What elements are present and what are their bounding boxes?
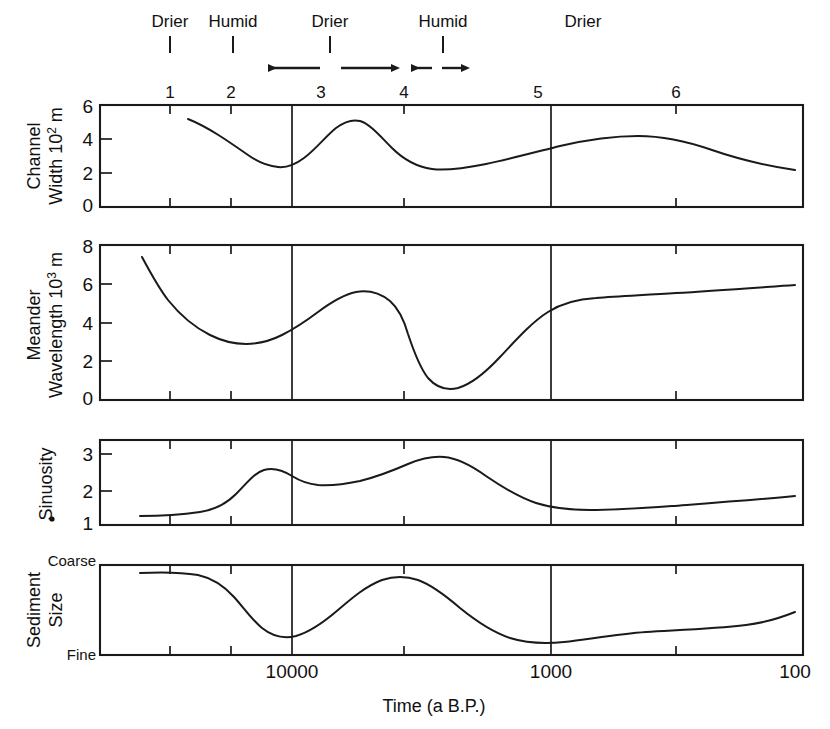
panel-1-ylabel-0: 0: [82, 195, 93, 216]
phase-number-4: 4: [399, 83, 408, 102]
panel-2-ytitle-group: Meander Wavelength 103 m: [24, 252, 66, 398]
sinuosity-bullet-icon: [49, 516, 54, 521]
panel-1-ylabel-2: 2: [82, 163, 93, 184]
phase-number-6: 6: [671, 83, 680, 102]
climate-label-3: Drier: [312, 12, 349, 31]
panel-3-ylabel-2: 2: [82, 481, 93, 502]
climate-label-5: Drier: [565, 12, 602, 31]
panel-2-ylabel-2: 2: [82, 351, 93, 372]
xtick-label-1000: 1000: [530, 661, 572, 682]
panel-channel-width: 6 4 2 0: [82, 96, 803, 216]
panel-sinuosity: 3 2 1: [82, 440, 803, 534]
xtick-label-100: 100: [779, 661, 811, 682]
xtick-label-10000: 10000: [266, 661, 319, 682]
panel-1-ytitle-line2: Width 102 m: [45, 107, 66, 205]
phase-number-1: 1: [165, 83, 174, 102]
panel-1-ytitle-group: Channel Width 102 m: [24, 107, 66, 205]
panel-3-ylabel-3: 3: [82, 444, 93, 465]
panel-4-ytitle-line2: Size: [46, 592, 66, 627]
panel-4-ylabel-fine: Fine: [67, 646, 96, 663]
panel-2-ylabel-6: 6: [82, 274, 93, 295]
panel-4-ytitle-line1: Sediment: [24, 572, 44, 648]
phase-number-5: 5: [533, 83, 542, 102]
panel-2-ytitle-line1: Meander: [24, 289, 44, 360]
panel-2-ylabel-8: 8: [82, 236, 93, 257]
panel-3-curve: [140, 457, 795, 516]
panel-3-ylabel-1: 1: [82, 513, 93, 534]
phase-number-2: 2: [226, 83, 235, 102]
panel-meander-wavelength: 8 6 4 2 0: [82, 236, 803, 409]
panel-3-ytitle-group: Sinuosity: [36, 447, 56, 521]
panel-4-frame: [100, 565, 803, 655]
climate-annotation-group: Drier Humid Drier Humid Drier: [152, 12, 602, 53]
panel-2-ylabel-4: 4: [82, 313, 93, 334]
panel-2-ytitle-line2: Wavelength 103 m: [45, 252, 66, 398]
panel-4-ytitle-group: Sediment Size: [24, 572, 66, 648]
phase-number-3: 3: [316, 83, 325, 102]
chart-svg: Drier Humid Drier Humid Drier: [0, 0, 830, 729]
panel-1-ylabel-4: 4: [82, 129, 93, 150]
panel-3-ytitle-line1: Sinuosity: [36, 447, 56, 520]
figure-root: Drier Humid Drier Humid Drier: [0, 0, 830, 729]
xaxis-group: 10000 1000 100 Time (a B.P.): [266, 661, 811, 716]
panel-sediment-size: Coarse Fine: [48, 552, 803, 663]
panel-4-curve: [140, 572, 795, 643]
panel-2-curve: [142, 257, 795, 389]
climate-label-2: Humid: [208, 12, 257, 31]
panel-1-curve: [188, 119, 795, 170]
panel-3-frame: [100, 440, 803, 525]
climate-label-1: Drier: [152, 12, 189, 31]
panel-1-ytitle-line1: Channel: [24, 122, 44, 189]
panel-1-frame: [100, 105, 803, 207]
xaxis-title: Time (a B.P.): [382, 696, 485, 716]
panel-4-ylabel-coarse: Coarse: [48, 552, 96, 569]
panel-2-ylabel-0: 0: [82, 388, 93, 409]
phase-number-group: 1 2 3 4 5 6: [165, 83, 680, 102]
panel-2-frame: [100, 245, 803, 400]
climate-label-4: Humid: [418, 12, 467, 31]
panel-1-ylabel-6: 6: [82, 96, 93, 117]
